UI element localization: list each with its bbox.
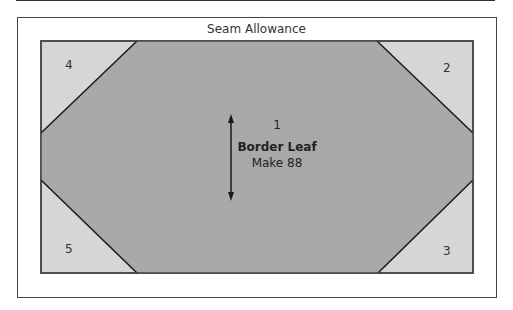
block-quantity: Make 88 xyxy=(237,156,317,170)
piece-label-3: 3 xyxy=(443,244,451,258)
piece-label-4: 4 xyxy=(65,58,73,72)
template-diagram xyxy=(0,0,513,310)
piece-label-2: 2 xyxy=(443,61,451,75)
piece-label-1: 1 xyxy=(237,118,317,132)
piece-label-5: 5 xyxy=(65,242,73,256)
block-name: Border Leaf xyxy=(227,140,327,154)
